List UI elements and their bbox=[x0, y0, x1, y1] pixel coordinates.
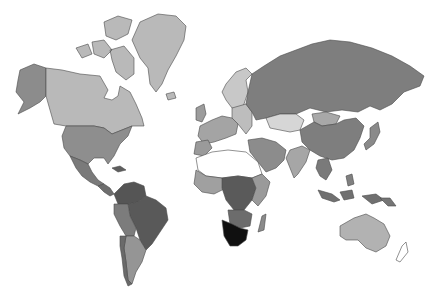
region-png bbox=[380, 198, 396, 206]
region-russia bbox=[246, 40, 424, 120]
region-new-zealand bbox=[396, 242, 408, 262]
region-western-europe bbox=[198, 116, 238, 144]
region-philippines bbox=[346, 174, 354, 186]
region-canada bbox=[46, 68, 144, 134]
region-china bbox=[300, 118, 364, 160]
region-central-america bbox=[98, 184, 114, 196]
region-se-asia bbox=[316, 158, 332, 180]
region-kazakhstan bbox=[266, 114, 304, 132]
region-greenland bbox=[132, 14, 186, 92]
region-india bbox=[286, 146, 310, 178]
region-iceland bbox=[166, 92, 176, 100]
map-canvas bbox=[0, 0, 441, 298]
region-caribbean bbox=[112, 166, 126, 172]
region-australia bbox=[340, 214, 390, 252]
region-japan bbox=[364, 122, 380, 150]
region-alaska bbox=[16, 64, 46, 114]
region-indonesia bbox=[318, 190, 384, 204]
region-uk bbox=[196, 104, 206, 122]
region-central-africa bbox=[222, 176, 256, 210]
region-canada-arctic bbox=[76, 16, 134, 80]
region-madagascar bbox=[258, 214, 266, 232]
world-choropleth-map bbox=[0, 0, 441, 298]
